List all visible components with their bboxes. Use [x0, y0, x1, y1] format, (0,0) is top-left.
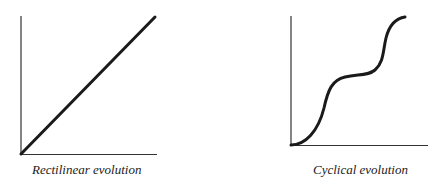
diagram-canvas	[0, 0, 443, 189]
rectilinear-caption: Rectilinear evolution	[32, 162, 141, 178]
rectilinear-curve	[21, 17, 155, 154]
rectilinear-diagram	[21, 16, 157, 155]
cyclical-diagram	[291, 16, 428, 146]
cyclical-caption: Cyclical evolution	[313, 162, 408, 178]
cyclical-curve	[291, 17, 405, 145]
